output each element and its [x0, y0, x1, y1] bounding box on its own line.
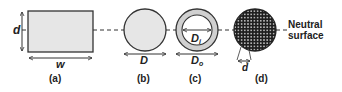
cross-section-diagram: d w (a) D (b) Di Do (c) d (d) Neutral su…: [0, 0, 342, 92]
panel-d-fiber-bundle: d (d): [234, 9, 276, 84]
caption-d: (d): [255, 73, 268, 84]
caption-c: (c): [189, 73, 201, 84]
label-D: D: [140, 54, 148, 66]
label-fiber-d: d: [242, 62, 249, 73]
label-d: d: [13, 23, 21, 37]
panel-c-hollow-circle: Di Do (c): [176, 9, 218, 84]
panel-b-solid-circle: D (b): [124, 9, 166, 84]
caption-a: (a): [49, 73, 61, 84]
caption-b: (b): [137, 73, 150, 84]
label-Do: Do: [191, 54, 204, 67]
neutral-surface-label-line1: Neutral: [288, 19, 323, 30]
label-w: w: [56, 58, 66, 70]
panel-a-rectangle: d w (a): [13, 11, 93, 84]
neutral-surface-label-line2: surface: [288, 30, 324, 41]
